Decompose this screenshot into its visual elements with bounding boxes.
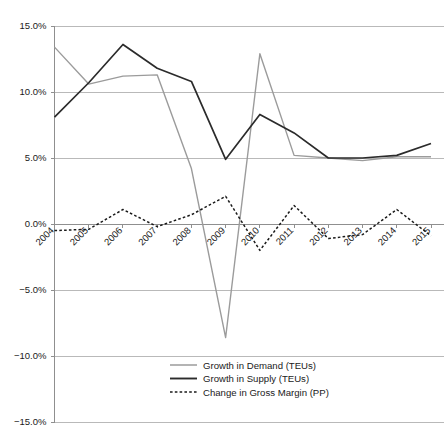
x-tick-label: 2007 (136, 225, 159, 248)
legend-label: Growth in Demand (TEUs) (203, 360, 316, 371)
x-tick-label: 2009 (204, 225, 227, 248)
line-chart: 15.0%10.0%5.0%0.0%−5.0%−10.0%−15.0% 2004… (0, 0, 445, 436)
series-line-growth-in-supply (55, 44, 432, 159)
legend-label: Change in Gross Margin (PP) (203, 387, 329, 398)
series-line-growth-in-demand (55, 47, 432, 337)
y-tick-label: 15.0% (20, 20, 47, 31)
chart-legend: Growth in Demand (TEUs)Growth in Supply … (170, 360, 329, 398)
x-tick-label: 2005 (67, 225, 90, 248)
x-tick-label: 2008 (170, 225, 193, 248)
data-series (55, 44, 432, 337)
y-tick-label: −5.0% (19, 284, 47, 295)
legend-label: Growth in Supply (TEUs) (203, 373, 309, 384)
y-tick-label: 10.0% (20, 86, 47, 97)
chart-canvas: 15.0%10.0%5.0%0.0%−5.0%−10.0%−15.0% 2004… (0, 0, 445, 436)
x-tick-label: 2014 (375, 225, 398, 248)
x-tick-label: 2010 (239, 225, 262, 248)
y-tick-label: 5.0% (25, 152, 47, 163)
y-axis: 15.0%10.0%5.0%0.0%−5.0%−10.0%−15.0% (14, 20, 55, 427)
y-tick-label: −10.0% (14, 350, 47, 361)
x-tick-label: 2006 (102, 225, 125, 248)
y-tick-label: −15.0% (14, 416, 47, 427)
